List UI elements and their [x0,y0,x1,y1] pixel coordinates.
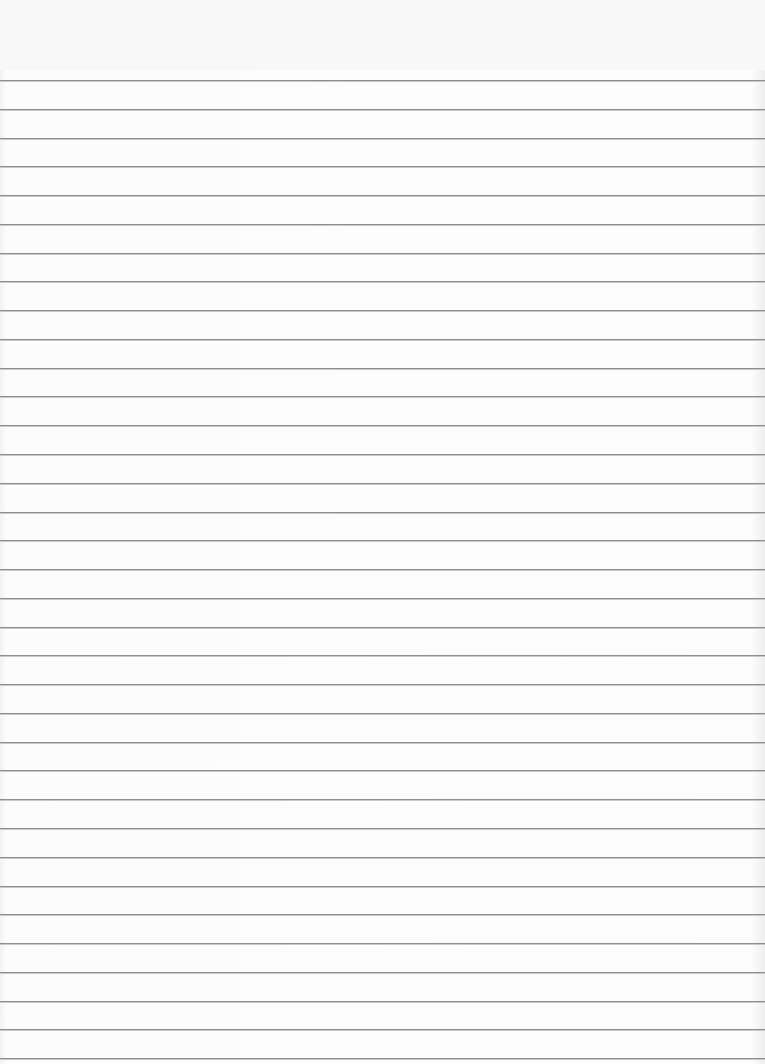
ruled-line [0,770,765,772]
ruled-line [0,742,765,744]
ruled-line [0,425,765,427]
lined-paper-sheet [0,0,765,1064]
ruled-line [0,483,765,485]
ruled-line [0,310,765,312]
ruled-line [0,943,765,945]
ruled-line [0,224,765,226]
ruled-line [0,1058,765,1060]
ruled-line [0,684,765,686]
ruled-line [0,109,765,111]
ruled-line [0,1029,765,1031]
ruled-line [0,799,765,801]
ruled-line [0,138,765,140]
ruled-line [0,857,765,859]
ruled-line [0,828,765,830]
ruled-line [0,569,765,571]
ruled-line [0,886,765,888]
ruled-line [0,540,765,542]
paper-top-margin [0,0,765,70]
ruled-line [0,627,765,629]
ruled-line [0,598,765,600]
ruled-line [0,655,765,657]
ruled-line [0,454,765,456]
ruled-line [0,253,765,255]
ruled-line [0,166,765,168]
ruled-line [0,1001,765,1003]
ruled-line [0,195,765,197]
ruled-line [0,713,765,715]
ruled-line [0,914,765,916]
ruled-line [0,281,765,283]
ruled-line [0,80,765,82]
ruled-line [0,368,765,370]
ruled-line [0,512,765,514]
ruled-line [0,396,765,398]
ruled-line [0,339,765,341]
ruled-line [0,972,765,974]
